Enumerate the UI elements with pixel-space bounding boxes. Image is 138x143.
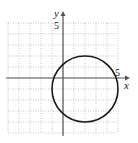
y-axis-arrow-icon	[61, 11, 66, 16]
y-tick-label-5: 5	[54, 20, 59, 31]
coordinate-plane: x y 5 5	[0, 0, 138, 143]
y-axis-label: y	[53, 7, 59, 19]
x-axis-label: x	[123, 79, 129, 91]
x-tick-label-5: 5	[115, 67, 120, 78]
